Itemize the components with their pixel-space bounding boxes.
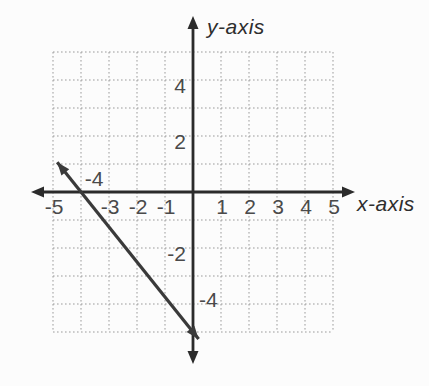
y-tick-label--4: -4 <box>199 288 218 311</box>
x-tick-label-1: 1 <box>216 195 228 218</box>
x-tick-label-2: 2 <box>244 195 256 218</box>
x-tick-label--5: -5 <box>45 195 64 218</box>
x-tick-label--1: -1 <box>157 195 176 218</box>
y-axis-label: y-axis <box>207 15 265 39</box>
x-axis-right-arrow-icon <box>342 187 355 198</box>
y-tick-label-4: 4 <box>174 74 186 97</box>
x-axis-label: x-axis <box>357 192 415 216</box>
x-tick-label-4: 4 <box>300 195 312 218</box>
coordinate-plane-figure: -5-4-3-2-11234542-2-4 y-axis x-axis <box>0 0 429 386</box>
x-axis-left-arrow-icon <box>31 187 44 198</box>
x-tick-label-3: 3 <box>272 195 284 218</box>
y-axis-down-arrow-icon <box>188 351 199 364</box>
x-tick-label--4: -4 <box>85 167 104 190</box>
y-tick-label--2: -2 <box>167 242 186 265</box>
x-tick-label--3: -3 <box>101 195 120 218</box>
x-tick-label-5: 5 <box>328 195 340 218</box>
y-tick-label-2: 2 <box>174 130 186 153</box>
y-axis-up-arrow-icon <box>188 16 199 29</box>
x-tick-label--2: -2 <box>129 195 148 218</box>
